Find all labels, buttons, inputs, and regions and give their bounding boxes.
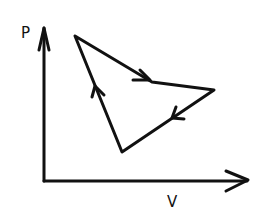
v-axis-label: V <box>167 193 178 211</box>
pv-diagram: P V <box>0 0 261 217</box>
cycle-triangle <box>75 36 214 152</box>
axes <box>39 28 248 191</box>
cycle-path <box>75 36 214 152</box>
p-axis-label: P <box>21 24 30 42</box>
